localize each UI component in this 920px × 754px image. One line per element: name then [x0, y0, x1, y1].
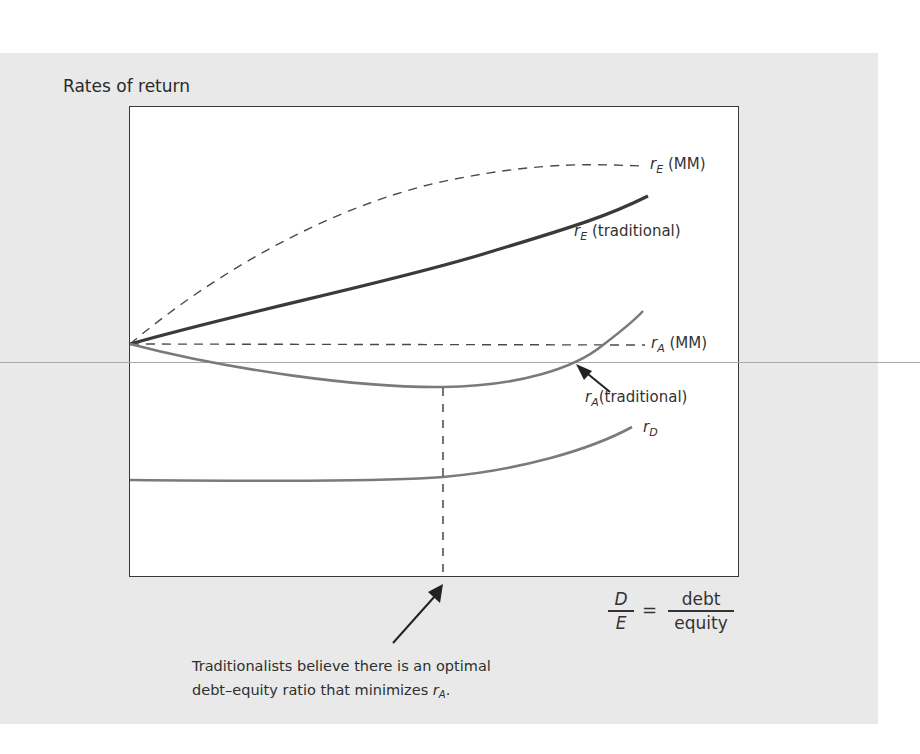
arrow-optimal-icon [393, 584, 443, 643]
curve-rA-mm [130, 344, 645, 345]
curve-rE-traditional [130, 196, 648, 344]
equals-sign: = [642, 599, 657, 620]
curve-rD [130, 427, 632, 481]
label-rE-mm: rE (MM) [650, 155, 705, 176]
optimal-ratio-annotation: Traditionalists believe there is an opti… [192, 654, 491, 707]
label-rA-mm: rA (MM) [651, 334, 707, 355]
label-rE-traditional: rE (traditional) [574, 222, 681, 243]
curve-rE-mm [130, 165, 645, 344]
chart-curves [0, 0, 920, 754]
label-rD: rD [643, 418, 658, 439]
label-rA-traditional: rA(traditional) [585, 388, 687, 409]
x-axis-label: D E = debt equity [606, 588, 746, 638]
y-axis-label: Rates of return [63, 76, 190, 96]
debt-equity-fraction: debt equity [668, 588, 734, 634]
de-fraction: D E [608, 588, 634, 634]
